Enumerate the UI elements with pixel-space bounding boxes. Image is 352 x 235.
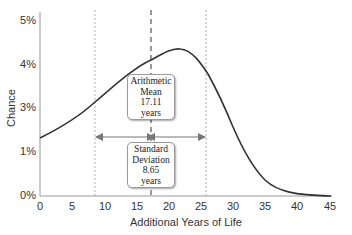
- svg-text:10: 10: [99, 200, 111, 212]
- sd-unit: years: [128, 176, 174, 187]
- svg-text:20: 20: [163, 200, 175, 212]
- distribution-curve: [40, 49, 331, 196]
- svg-text:4%: 4%: [20, 58, 36, 70]
- svg-text:0%: 0%: [20, 189, 36, 201]
- x-axis-title: Additional Years of Life: [130, 216, 242, 228]
- sd-annotation-box: Standard Deviation 8.65 years: [127, 142, 175, 188]
- svg-text:45: 45: [324, 200, 336, 212]
- y-axis-title: Chance: [5, 89, 17, 127]
- mean-value: 17.11: [128, 97, 174, 108]
- mean-label-line1: Arithmetic: [128, 76, 174, 87]
- svg-text:25: 25: [195, 200, 207, 212]
- sd-label-line1: Standard: [128, 144, 174, 155]
- y-tick-labels: 5% 4% 3% 1% 0%: [20, 14, 36, 201]
- svg-text:1%: 1%: [20, 145, 36, 157]
- svg-text:0: 0: [37, 200, 43, 212]
- svg-text:5%: 5%: [20, 14, 36, 26]
- svg-text:5: 5: [69, 200, 75, 212]
- svg-text:40: 40: [291, 200, 303, 212]
- sd-label-line2: Deviation: [128, 155, 174, 166]
- svg-text:35: 35: [259, 200, 271, 212]
- sd-value: 8.65: [128, 165, 174, 176]
- chart: 5% 4% 3% 1% 0% 0 5 10 15 20 25 30 35 40 …: [0, 0, 352, 235]
- svg-text:15: 15: [131, 200, 143, 212]
- mean-label-line2: Mean: [128, 87, 174, 98]
- mean-annotation-box: Arithmetic Mean 17.11 years: [127, 74, 175, 120]
- mean-unit: years: [128, 108, 174, 119]
- svg-text:30: 30: [227, 200, 239, 212]
- x-tick-labels: 0 5 10 15 20 25 30 35 40 45: [37, 200, 336, 212]
- svg-text:3%: 3%: [20, 101, 36, 113]
